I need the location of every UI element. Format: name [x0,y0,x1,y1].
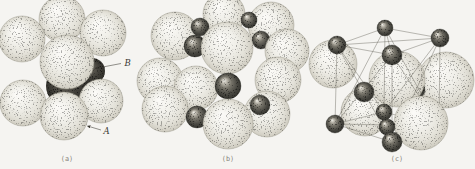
panel-c: (c) [309,20,474,163]
panel-caption-a: (a) [61,155,73,163]
site-label-a: A [103,126,110,136]
large-sphere [201,22,253,74]
small-ion-sphere [241,12,257,28]
small-ion-sphere [354,82,374,102]
figure-canvas: BA(a)(b)(c) [0,0,475,169]
crystal-structure-figure: BA(a)(b)(c) [0,0,475,169]
panel-a: BA(a) [0,0,131,163]
large-sphere [0,80,46,126]
small-ion-sphere [382,132,402,152]
small-ion-sphere [431,29,449,47]
large-sphere [203,99,253,149]
large-sphere [40,35,94,89]
panel-b: (b) [137,0,309,163]
small-ion-sphere [326,115,344,133]
large-sphere [142,86,188,132]
large-sphere [0,16,45,62]
panel-caption-b: (b) [222,155,234,163]
small-ion-sphere [328,36,346,54]
large-sphere [40,92,88,140]
small-ion-sphere [250,95,270,115]
site-label-b: B [124,58,131,68]
small-ion-sphere [382,45,402,65]
small-ion-sphere [377,20,393,36]
small-ion-sphere [376,104,392,120]
panel-caption-c: (c) [391,155,403,163]
small-ion-sphere [215,73,241,99]
label-arrow-a [88,126,102,130]
